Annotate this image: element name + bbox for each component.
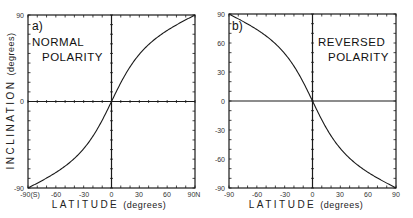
right-xtick-neg60: -60	[252, 191, 262, 198]
figure: a) NORMAL POLARITY 90 0 -90 -90(S) -60 -…	[0, 0, 413, 218]
left-xtick-60: 60	[163, 191, 171, 198]
right-ytick-60: 60	[217, 40, 225, 47]
right-title-line2: POLARITY	[328, 51, 389, 63]
left-xtick-90: 90N	[188, 191, 201, 198]
right-xtick-90: 90	[392, 191, 400, 198]
right-xtick-30: 30	[336, 191, 344, 198]
right-ytick-0: 0	[221, 98, 225, 105]
left-xtick-neg90: -90(S)	[20, 191, 39, 199]
left-x-axis-label: LATITUDE(degrees)	[52, 199, 167, 210]
right-xtick-neg90: -90	[224, 191, 234, 198]
reversed-polarity-panel: b) REVERSED POLARITY 90 60 30 0 -30 -60 …	[215, 11, 400, 210]
left-xtick-0: 0	[110, 191, 114, 198]
left-title-line2: POLARITY	[42, 51, 103, 63]
left-title-line1: NORMAL	[32, 36, 84, 48]
right-xtick-0: 0	[311, 191, 315, 198]
normal-polarity-panel: a) NORMAL POLARITY 90 0 -90 -90(S) -60 -…	[5, 12, 200, 210]
left-panel-label: a)	[32, 19, 43, 33]
right-ytick-30: 30	[217, 69, 225, 76]
left-xtick-neg60: -60	[51, 191, 61, 198]
left-y-axis-label: INCLINATION(degrees)	[5, 32, 16, 169]
left-xtick-neg30: -30	[79, 191, 89, 198]
left-ytick-90: 90	[16, 12, 24, 19]
right-ytick-90: 90	[217, 11, 225, 18]
right-xtick-neg30: -30	[280, 191, 290, 198]
right-ytick-neg30: -30	[215, 127, 225, 134]
right-xtick-60: 60	[364, 191, 372, 198]
right-title-line1: REVERSED	[318, 36, 385, 48]
right-ytick-neg60: -60	[215, 156, 225, 163]
right-y-tick-labels: 90 60 30 0 -30 -60 -90	[215, 11, 225, 192]
left-ytick-0: 0	[20, 98, 24, 105]
right-x-axis-label: LATITUDE(degrees)	[249, 199, 364, 210]
left-xtick-30: 30	[135, 191, 143, 198]
right-panel-label: b)	[232, 19, 243, 33]
